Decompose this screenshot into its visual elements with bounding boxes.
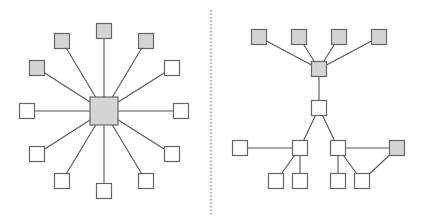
tree-node [252, 30, 267, 45]
star-leaf-node [165, 147, 180, 162]
tree-node [331, 141, 346, 156]
tree-node [269, 174, 284, 189]
star-leaf-node [20, 104, 35, 119]
star-leaf-node [55, 174, 70, 189]
star-leaf-node [139, 34, 154, 49]
tree-node [292, 30, 307, 45]
tree-node [312, 62, 327, 77]
star-leaf-node [30, 61, 45, 76]
tree-node [233, 141, 248, 156]
star-leaf-node [174, 104, 189, 119]
diagram-canvas [0, 0, 422, 224]
star-leaf-node [139, 174, 154, 189]
network-topology-diagram [0, 0, 422, 224]
star-topology [20, 24, 189, 199]
tree-node [312, 101, 327, 116]
star-leaf-node [97, 24, 112, 39]
star-leaf-node [165, 61, 180, 76]
tree-node [355, 174, 370, 189]
tree-node [390, 141, 405, 156]
edge-line [319, 37, 379, 69]
tree-node [331, 174, 346, 189]
tree-topology [233, 30, 405, 189]
edge-line [259, 37, 319, 69]
tree-node [372, 30, 387, 45]
star-leaf-node [97, 184, 112, 199]
star-leaf-node [30, 147, 45, 162]
tree-node [332, 30, 347, 45]
tree-node [293, 141, 308, 156]
star-leaf-node [55, 34, 70, 49]
star-hub-node [90, 97, 118, 125]
tree-node [293, 174, 308, 189]
